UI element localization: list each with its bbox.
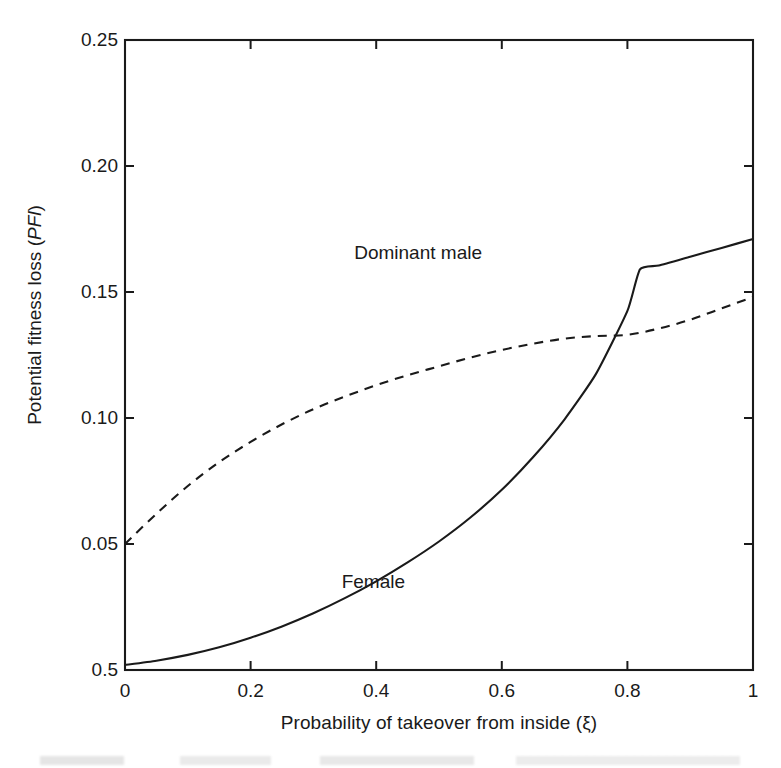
series-path-dominant-male — [125, 297, 753, 544]
figure-panel: Potential fitness loss (PFl) 0.250.200.1… — [0, 0, 781, 768]
series-path-female — [125, 239, 753, 665]
axis-ticks — [125, 40, 753, 670]
plot-border — [125, 40, 753, 670]
axis-frame — [125, 40, 753, 670]
series-label-dominant-male: Dominant male — [354, 242, 482, 264]
scan-artifact-smudge — [40, 756, 740, 765]
plot-area — [0, 0, 781, 768]
series-label-female: Female — [342, 571, 405, 593]
data-curves — [125, 239, 753, 665]
